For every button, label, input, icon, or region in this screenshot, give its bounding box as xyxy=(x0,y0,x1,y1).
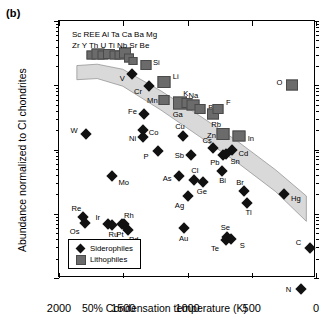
y-axis-minor-tick xyxy=(56,47,59,48)
y-axis-minor-tick xyxy=(316,95,319,96)
y-axis-minor-tick xyxy=(56,40,59,41)
y-axis-minor-tick xyxy=(316,175,319,176)
siderophile-point xyxy=(127,68,138,79)
y-axis-minor-tick xyxy=(316,35,319,36)
y-axis-minor-tick xyxy=(316,220,319,221)
y-axis-minor-tick xyxy=(56,91,59,92)
y-axis-minor-tick xyxy=(56,156,59,157)
y-axis-minor-tick xyxy=(56,35,59,36)
siderophile-point xyxy=(304,243,315,254)
y-axis-minor-tick xyxy=(316,194,319,195)
siderophile-point xyxy=(143,80,154,91)
y-axis-minor-tick xyxy=(316,239,319,240)
data-layer: VCrFeNiCoWMoCuPSbAsClGeAgCsPbSnCdBiBrTlH… xyxy=(59,21,314,276)
x-axis-tick-label: 1000 xyxy=(175,302,199,314)
panel-label: (b) xyxy=(6,7,21,19)
y-axis-minor-tick xyxy=(316,152,319,153)
element-label: Pb xyxy=(210,158,219,167)
y-axis-minor-tick xyxy=(316,130,319,131)
y-axis-minor-tick xyxy=(316,247,319,248)
siderophile-point xyxy=(152,145,163,156)
siderophile-point xyxy=(139,108,150,119)
refractory-group-line2: Zr Y Th U Ti Nb Sr Be xyxy=(72,41,149,51)
y-axis-tick xyxy=(314,150,319,151)
y-axis-minor-tick xyxy=(56,152,59,153)
siderophile-point xyxy=(173,171,184,182)
x-axis-tick xyxy=(316,273,317,278)
y-axis-tick xyxy=(54,85,59,86)
element-label: Zn xyxy=(207,130,216,139)
figure-panel: (b) Abundance normalized to CI chondrite… xyxy=(0,0,329,324)
x-axis-tick-label: 500 xyxy=(243,302,261,314)
y-axis-minor-tick xyxy=(316,233,319,234)
element-label: Tl xyxy=(245,208,251,217)
y-axis-minor-tick xyxy=(56,217,59,218)
x-axis-tick-label: 0 xyxy=(313,302,319,314)
y-axis-minor-tick xyxy=(316,228,319,229)
y-axis-tick xyxy=(314,85,319,86)
element-label: Ni xyxy=(129,134,136,143)
y-axis-minor-tick xyxy=(316,169,319,170)
y-axis-minor-tick xyxy=(56,224,59,225)
element-label: C xyxy=(296,238,301,247)
element-label: Rh xyxy=(124,210,134,219)
y-axis-minor-tick xyxy=(316,217,319,218)
y-axis-minor-tick xyxy=(56,228,59,229)
lithophile-point xyxy=(286,80,298,91)
lithophile-point xyxy=(159,95,170,105)
refractory-group-line1: Sc REE Al Ta Ca Ba Mg xyxy=(72,30,157,40)
element-label: Mn xyxy=(147,95,158,104)
y-axis-minor-tick xyxy=(316,259,319,260)
x-axis-tick-top xyxy=(123,21,124,26)
diamond-marker-icon xyxy=(74,245,87,252)
legend-label-siderophiles: Siderophiles xyxy=(90,244,133,253)
y-axis-minor-tick xyxy=(316,100,319,101)
element-label: Fe xyxy=(128,106,137,115)
x-axis-tick xyxy=(252,273,253,278)
y-axis-minor-tick xyxy=(316,27,319,28)
y-axis-minor-tick xyxy=(56,31,59,32)
element-label: W xyxy=(70,125,77,134)
y-axis-minor-tick xyxy=(316,55,319,56)
siderophile-point xyxy=(186,149,197,160)
siderophile-point xyxy=(238,185,249,196)
x-axis-tick-top xyxy=(252,21,253,26)
siderophile-point xyxy=(295,283,306,294)
legend-item-siderophiles: Siderophiles xyxy=(74,243,133,254)
element-label: Br xyxy=(236,177,244,186)
y-axis-minor-tick xyxy=(316,88,319,89)
y-axis-minor-tick xyxy=(316,183,319,184)
y-axis-tick xyxy=(54,150,59,151)
siderophile-point xyxy=(178,222,189,233)
y-axis-minor-tick xyxy=(56,239,59,240)
x-axis-tick-top xyxy=(188,21,189,26)
plot-area: VCrFeNiCoWMoCuPSbAsClGeAgCsPbSnCdBiBrTlH… xyxy=(58,20,315,277)
element-label: Cr xyxy=(134,86,142,95)
y-axis-minor-tick xyxy=(56,111,59,112)
element-label: Si xyxy=(153,58,160,67)
y-axis-minor-tick xyxy=(316,224,319,225)
x-axis-tick-label: 2000 xyxy=(47,302,71,314)
x-axis-tick xyxy=(59,273,60,278)
element-label: S xyxy=(240,241,245,250)
y-axis-minor-tick xyxy=(56,88,59,89)
element-label: Li xyxy=(173,72,179,81)
y-axis-minor-tick xyxy=(316,159,319,160)
y-axis-minor-tick xyxy=(56,100,59,101)
y-axis-title: Abundance normalized to CI chondrites xyxy=(16,68,28,252)
y-axis-minor-tick xyxy=(56,164,59,165)
lithophile-point xyxy=(217,128,230,140)
x-axis-tick-top xyxy=(316,21,317,26)
x-axis-tick xyxy=(123,273,124,278)
y-axis-minor-tick xyxy=(316,111,319,112)
y-axis-minor-tick xyxy=(56,259,59,260)
element-label: Se xyxy=(221,222,230,231)
element-label: Bi xyxy=(219,176,226,185)
square-marker-icon xyxy=(74,255,87,265)
y-axis-minor-tick xyxy=(56,220,59,221)
y-axis-minor-tick xyxy=(316,105,319,106)
y-axis-minor-tick xyxy=(316,66,319,67)
legend-label-lithophiles: Lithophiles xyxy=(90,255,127,264)
lithophile-point xyxy=(194,104,205,114)
lithophile-point xyxy=(157,76,170,88)
